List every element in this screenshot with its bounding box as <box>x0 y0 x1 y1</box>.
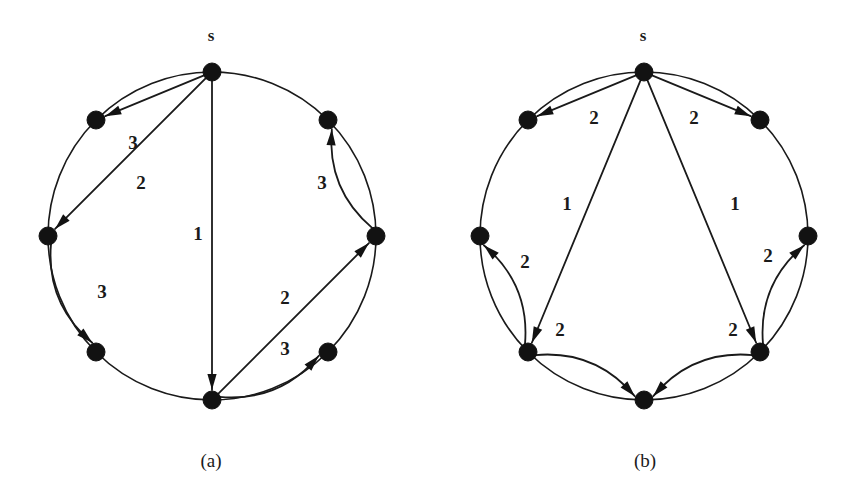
edge-a-s-v6 <box>55 78 206 229</box>
source-node-label-panel-a: s <box>208 26 215 45</box>
edge-weight-a-v4-v3: 3 <box>280 338 290 359</box>
edge-a-s-v4 <box>207 80 216 390</box>
graph-node-panel-a-v6[interactable] <box>39 227 57 245</box>
graph-node-panel-b-v6[interactable] <box>471 227 489 245</box>
edge-path-a-v4-v2 <box>218 243 369 394</box>
graph-node-panel-a-v1[interactable] <box>319 111 337 129</box>
graph-node-panel-a-v4[interactable] <box>203 391 221 409</box>
graph-node-panel-b-v3[interactable] <box>751 343 769 361</box>
graph-node-panel-a-v2[interactable] <box>367 227 385 245</box>
edge-path-b-v5-v4 <box>535 355 634 397</box>
edge-weight-b-v3-v2: 2 <box>763 245 773 266</box>
edge-weight-b-v5-v6: 2 <box>520 251 530 272</box>
edge-b-s-v3 <box>647 79 756 342</box>
edge-weight-b-s-v1: 2 <box>689 107 699 128</box>
graph-node-panel-b-v2[interactable] <box>799 227 817 245</box>
edge-weight-a-v4-v2: 2 <box>280 287 290 308</box>
edge-weight-a-v6-v5: 3 <box>97 281 107 302</box>
panel-caption-panel-b: (b) <box>634 450 656 472</box>
edge-a-s-v7 <box>105 75 204 116</box>
graph-node-panel-b-v5[interactable] <box>519 343 537 361</box>
edge-path-a-v6-v5 <box>51 243 93 342</box>
panel-caption-panel-a: (a) <box>200 450 221 472</box>
arrowhead-a-v2-v1 <box>326 129 335 145</box>
edge-path-b-s-v1 <box>651 75 750 116</box>
edge-a-v4-v2 <box>218 243 369 394</box>
edge-path-b-s-v7 <box>537 75 636 116</box>
graph-node-panel-b-s[interactable] <box>635 63 653 81</box>
panel-b: 22112222s(b) <box>471 26 817 472</box>
edge-weight-b-v5-v4: 2 <box>555 319 565 340</box>
edge-b-v5-v4 <box>535 355 634 397</box>
edge-b-s-v7 <box>537 75 636 116</box>
edge-path-b-s-v5 <box>532 79 641 342</box>
edge-b-v5-v6 <box>484 245 526 344</box>
arrowhead-b-s-v1 <box>734 106 751 116</box>
graph-figure: 3213233s(a)22112222s(b) <box>0 0 854 497</box>
graph-node-panel-a-v5[interactable] <box>87 343 105 361</box>
figure-root: 3213233s(a)22112222s(b) <box>0 0 854 497</box>
graph-node-panel-a-v3[interactable] <box>319 343 337 361</box>
edge-path-a-v2-v1 <box>331 129 373 228</box>
edge-weight-a-s-v6: 2 <box>136 172 146 193</box>
edge-b-s-v1 <box>651 75 750 116</box>
graph-node-panel-b-v7[interactable] <box>519 111 537 129</box>
arrowhead-a-s-v4 <box>207 374 216 390</box>
source-node-label-panel-b: s <box>640 26 647 45</box>
edge-weight-b-v3-v4: 2 <box>728 319 738 340</box>
arrowhead-b-s-v3 <box>746 326 756 343</box>
edge-b-s-v5 <box>532 79 641 342</box>
edge-path-a-s-v7 <box>105 75 204 116</box>
edge-weight-b-s-v5: 1 <box>562 193 572 214</box>
graph-node-panel-a-v7[interactable] <box>87 111 105 129</box>
edge-weight-a-v2-v1: 3 <box>317 172 327 193</box>
edge-weight-a-s-v4: 1 <box>193 223 203 244</box>
edge-b-v3-v4 <box>653 355 752 397</box>
edge-path-a-s-v6 <box>55 78 206 229</box>
graph-node-panel-b-v4[interactable] <box>635 391 653 409</box>
edge-weight-b-s-v3: 1 <box>730 193 740 214</box>
edge-path-b-s-v3 <box>647 79 756 342</box>
arrowhead-a-s-v7 <box>105 106 122 116</box>
edge-path-b-v5-v6 <box>484 245 526 344</box>
arrowhead-b-s-v5 <box>532 326 542 343</box>
graph-node-panel-a-s[interactable] <box>203 63 221 81</box>
graph-node-panel-b-v1[interactable] <box>751 111 769 129</box>
edge-a-v6-v5 <box>51 243 93 342</box>
arrowhead-b-s-v7 <box>537 106 554 116</box>
edge-path-b-v3-v4 <box>653 355 752 397</box>
edge-weight-b-s-v7: 2 <box>589 107 599 128</box>
panel-a: 3213233s(a) <box>39 26 385 472</box>
